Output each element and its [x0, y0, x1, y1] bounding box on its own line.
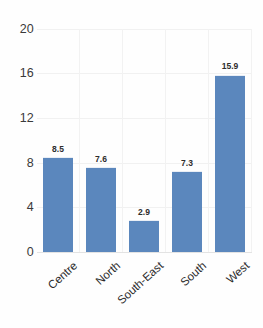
x-axis: Centre North South-East South West	[0, 0, 263, 328]
bar-chart: 20 16 12 8 4 0 8.5 7.6 2.9 7.3 15.9 Cent…	[0, 0, 263, 328]
x-tick-label-centre: Centre	[5, 260, 80, 328]
